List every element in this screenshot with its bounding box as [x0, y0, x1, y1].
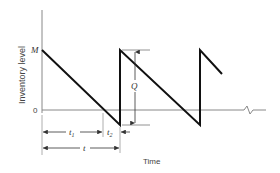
inventory-diagram: Inventory level M 0 Q t1 t2 t Time — [0, 0, 280, 173]
t1-label-sub: 1 — [72, 132, 75, 138]
t2-label: t2 — [107, 127, 113, 138]
zero-level-label: 0 — [33, 106, 38, 115]
time-axis — [42, 106, 266, 114]
q-label: Q — [131, 81, 138, 91]
t2-label-sub: 2 — [110, 132, 113, 138]
max-level-label: M — [30, 45, 39, 55]
x-axis-label: Time — [143, 157, 161, 166]
y-axis-label: Inventory level — [17, 46, 27, 104]
